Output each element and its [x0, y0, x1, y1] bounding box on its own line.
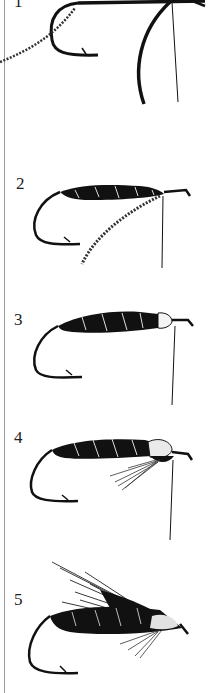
step-3: 3 — [0, 280, 209, 420]
step-2: 2 — [0, 140, 209, 280]
hook-illustration-4 — [0, 420, 209, 560]
hook-illustration-1 — [0, 0, 209, 140]
hook-illustration-3 — [0, 280, 209, 420]
hook-illustration-2 — [0, 140, 209, 280]
step-4: 4 — [0, 420, 209, 560]
step-5: 5 — [0, 560, 209, 693]
hook-illustration-5 — [0, 560, 209, 693]
step-1: 1 — [0, 0, 209, 140]
